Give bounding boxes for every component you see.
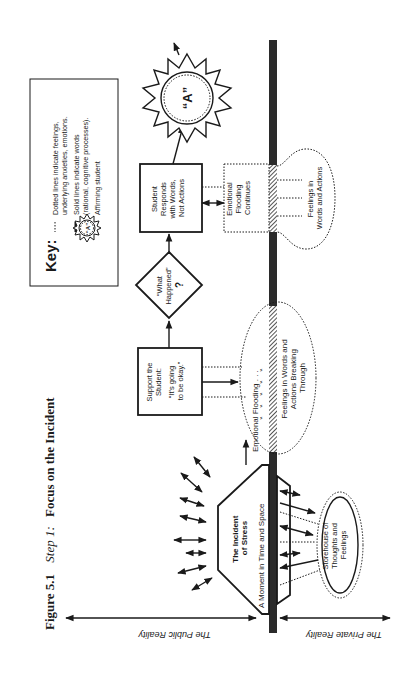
svg-text:⸗: ⸗	[260, 414, 263, 421]
key-dotted-line-2: underlying anxieties, emotions.	[60, 116, 69, 215]
moment-label: A Moment in Time and Space	[257, 503, 266, 608]
flooding-squiggles: ⸗⸗⸗⸗⸗	[260, 366, 263, 421]
svg-text:Dotted lines indicate feelings: Dotted lines indicate feelings, underlyi…	[51, 116, 69, 215]
focus-on-incident-diagram: Figure 5.1 Step 1: Focus on the Incident…	[0, 0, 416, 681]
incident-of-stress-node: The Incident of Stress A Moment in Time …	[218, 465, 290, 614]
support-to-flooding-connections	[202, 367, 246, 397]
svg-text:⸗: ⸗	[260, 366, 263, 373]
key-dotted-line-1: Dotted lines indicate feelings,	[51, 122, 60, 216]
flooding-continues-node: Emotional Flooding Continues	[224, 164, 269, 232]
student-responds-node: Student Responds with Words, Not Actions	[140, 164, 202, 232]
public-interaction-arrows	[174, 457, 212, 590]
figure-step: Step 1:	[42, 526, 57, 562]
what-happened-node: “What Happened” ?	[136, 252, 202, 318]
incident-line-1: The Incident	[231, 515, 240, 562]
sun-outward-arrow	[174, 43, 179, 55]
key-affirming: Affirming student	[93, 161, 102, 215]
key-box: Key: Dotted lines indicate feelings, und…	[30, 79, 118, 286]
sun-letter: “A”	[180, 87, 195, 109]
affirming-sun-node: “A”	[143, 54, 231, 142]
figure-number: Figure 5.1	[42, 574, 57, 630]
emotional-flooding-node: Emotional Flooding . . . Feelings in Wor…	[240, 302, 316, 454]
figure-title-text: Focus on the Incident	[42, 397, 57, 517]
incident-line-2: of Stress	[240, 520, 249, 555]
svg-text:⸗: ⸗	[260, 402, 263, 409]
private-reality-label: The Private Reality	[305, 630, 382, 640]
svg-text:⸗: ⸗	[260, 378, 263, 385]
public-reality-label: The Public Reality	[138, 630, 211, 640]
svg-text:“A”: “A”	[85, 223, 91, 233]
support-student-node: Support the Student: “It's going to be o…	[138, 348, 202, 415]
key-solid-line-2: (rational, cognitive processes).	[81, 118, 90, 215]
public-reality-axis: The Public Reality	[66, 618, 256, 640]
reality-divider-bar	[269, 40, 277, 633]
storehouse-node: Storehouse of Thoughts and Feelings	[317, 492, 363, 598]
responds-to-continues-connections	[202, 187, 224, 203]
figure-title: Figure 5.1 Step 1: Focus on the Incident	[42, 397, 57, 630]
key-solid-line-1: Solid lines indicate words	[72, 134, 81, 215]
svg-text:Emotional Flooding: Emotional Flooding Continues	[225, 180, 252, 215]
svg-text:Feelings in Words and: Feelings in Words and Actions Breaking T…	[280, 337, 307, 419]
svg-text:Figure 5.1 Step 1:: Figure 5.1 Step 1: Focus on the Incident	[42, 397, 57, 630]
private-reality-axis: The Private Reality	[280, 618, 390, 640]
svg-text:⸗: ⸗	[260, 390, 263, 397]
key-label: Key:	[42, 239, 59, 272]
svg-text:Feelings in Words and: Feelings in Words and Actions	[306, 167, 324, 230]
flooding-label: Emotional Flooding . . .	[251, 370, 260, 452]
feelings-in-words-node: Feelings in Words and Actions	[277, 149, 335, 249]
